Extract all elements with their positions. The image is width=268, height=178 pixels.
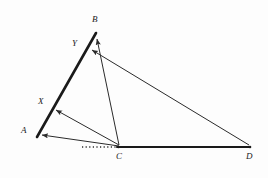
- vertex-label-A: A: [21, 126, 27, 135]
- vertex-label-D: D: [246, 152, 253, 161]
- vertex-label-X: X: [38, 97, 44, 106]
- vertex-label-B: B: [92, 15, 98, 24]
- vertex-label-Y: Y: [72, 39, 77, 48]
- thick-segments: [37, 33, 250, 147]
- segment-AB: [37, 33, 96, 137]
- vertex-dot-D: [249, 146, 252, 149]
- arrow-segments: [42, 39, 249, 146]
- vertex-label-C: C: [116, 152, 122, 161]
- figure-canvas: B Y X A C D: [0, 0, 268, 178]
- geometry-diagram: [0, 0, 268, 178]
- vertex-dot-C: [117, 146, 120, 149]
- segment-C-to-A: [42, 135, 119, 146]
- segment-C-to-X: [56, 110, 119, 145]
